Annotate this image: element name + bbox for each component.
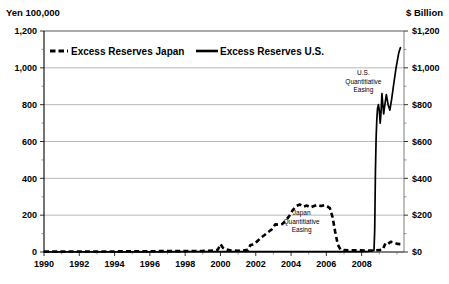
x-axis-tick-label: 2000 [210,259,230,269]
x-axis-tick-label: 2008 [352,259,372,269]
x-axis-tick-label: 2004 [281,259,301,269]
x-axis-tick-label: 1994 [105,259,125,269]
y-axis-title: Yen 100,000 [6,7,60,18]
excess-reserves-chart: 02004006008001,0001,200 $0$200$400$600$8… [0,0,449,284]
y2-axis-tick-label: $200 [412,210,432,220]
chart-canvas: 02004006008001,0001,200 $0$200$400$600$8… [0,0,449,284]
y2-axis-tick-label: $0 [412,247,422,257]
legend-label-us: Excess Reserves U.S. [220,46,324,57]
y-axis-tick-label: 400 [22,174,37,184]
x-axis-tick-label: 2006 [316,259,336,269]
annotation-line: Easing [292,226,312,234]
y2-axis-tick-label: $1,000 [412,63,440,73]
annotation-line: U.S. [357,69,370,76]
y2-axis-title: $ Billion [406,7,443,18]
x-axis-tick-label: 1990 [34,259,54,269]
annotation-line: Japan [293,209,311,217]
y2-axis-tick-label: $1,200 [412,26,440,36]
y2-axis-tick-label: $600 [412,137,432,147]
x-axis-tick-label: 1998 [175,259,195,269]
annotation-line: Quantitiative [345,78,382,86]
x-axis-tick-label: 2002 [246,259,266,269]
annotation-line: Easing [353,86,373,94]
y-axis-tick-label: 1,200 [14,26,37,36]
y-axis-tick-label: 600 [22,137,37,147]
y-axis-tick-label: 1,000 [14,63,37,73]
y2-axis-tick-label: $800 [412,100,432,110]
y-axis-tick-label: 800 [22,100,37,110]
annotation-line: Quantitiative [284,218,321,226]
x-axis-tick-label: 1992 [69,259,89,269]
y-axis-tick-label: 200 [22,210,37,220]
y-axis-tick-label: 0 [32,247,37,257]
y2-axis-tick-label: $400 [412,174,432,184]
x-axis-tick-label: 1996 [140,259,160,269]
legend-label-japan: Excess Reserves Japan [71,46,184,57]
chart-background [0,0,449,284]
